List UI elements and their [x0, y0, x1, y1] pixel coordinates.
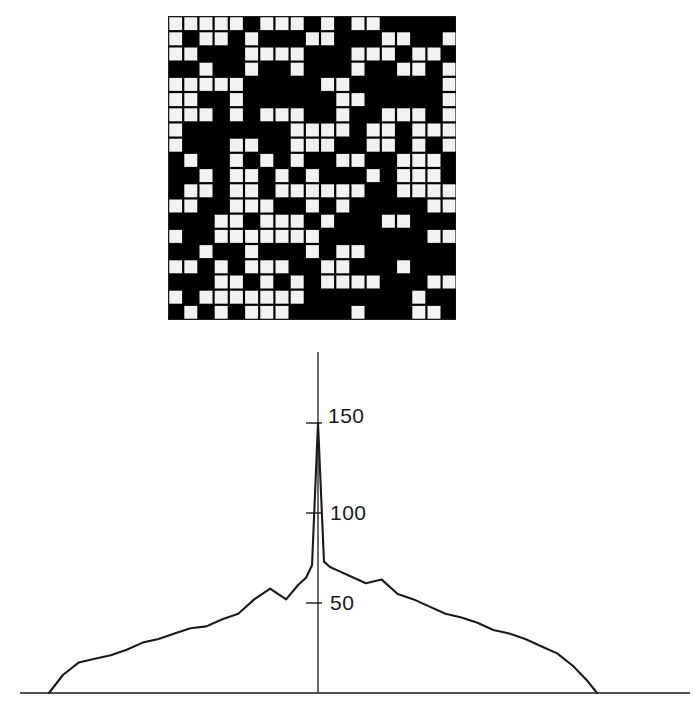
grid-cell-off [306, 230, 319, 243]
grid-cell-off [291, 17, 304, 30]
grid-cell-off [230, 291, 243, 304]
grid-cell-off [382, 215, 395, 228]
grid-cell-off [260, 291, 273, 304]
grid-cell-off [336, 184, 349, 197]
grid-cell-off [215, 260, 228, 273]
grid-cell-off [276, 48, 289, 61]
autocorrelation-plot-svg: 150 100 50 [0, 330, 700, 713]
grid-cell-off [428, 306, 441, 319]
grid-cell-off [169, 124, 182, 137]
grid-cell-off [230, 215, 243, 228]
grid-cell-off [306, 32, 319, 45]
grid-cell-off [367, 169, 380, 182]
grid-cell-off [443, 276, 456, 289]
grid-cell-off [276, 291, 289, 304]
grid-cell-off [169, 230, 182, 243]
grid-cell-off [276, 17, 289, 30]
grid-cell-off [306, 124, 319, 137]
grid-cell-off [412, 48, 425, 61]
grid-cell-off [260, 215, 273, 228]
grid-cell-off [352, 63, 365, 76]
grid-cell-off [260, 260, 273, 273]
grid-cell-off [276, 215, 289, 228]
grid-cell-off [200, 291, 213, 304]
grid-cell-off [428, 276, 441, 289]
grid-cell-off [336, 93, 349, 106]
grid-cell-off [260, 154, 273, 167]
grid-cell-off [321, 32, 334, 45]
binary-grid-panel [168, 16, 456, 322]
grid-cell-off [352, 184, 365, 197]
grid-cell-off [184, 200, 197, 213]
grid-cell-off [200, 63, 213, 76]
grid-cell-off [245, 200, 258, 213]
grid-cell-off [215, 291, 228, 304]
grid-cell-off [169, 48, 182, 61]
grid-cell-off [291, 63, 304, 76]
grid-cell-off [260, 276, 273, 289]
grid-cell-off [169, 291, 182, 304]
grid-cell-off [382, 124, 395, 137]
grid-cell-off [443, 32, 456, 45]
grid-cell-off [169, 200, 182, 213]
grid-cell-off [397, 215, 410, 228]
grid-cell-off [200, 32, 213, 45]
grid-cell-off [184, 78, 197, 91]
grid-cell-off [169, 32, 182, 45]
grid-cell-off [169, 108, 182, 121]
grid-cell-off [200, 108, 213, 121]
grid-cell-off [412, 108, 425, 121]
grid-cell-off [443, 200, 456, 213]
grid-cell-off [230, 154, 243, 167]
grid-cell-off [306, 184, 319, 197]
grid-black-field [168, 16, 456, 320]
grid-cell-off [367, 48, 380, 61]
grid-cell-off [397, 184, 410, 197]
grid-cell-off [428, 184, 441, 197]
grid-cell-off [260, 108, 273, 121]
grid-cell-off [215, 78, 228, 91]
grid-cell-off [230, 78, 243, 91]
grid-cell-off [184, 184, 197, 197]
grid-cell-off [245, 63, 258, 76]
grid-cell-off [245, 139, 258, 152]
grid-cell-off [382, 139, 395, 152]
grid-cell-off [352, 17, 365, 30]
grid-cell-off [215, 230, 228, 243]
grid-cell-off [200, 169, 213, 182]
grid-cell-off [428, 48, 441, 61]
grid-cell-off [336, 260, 349, 273]
grid-cell-off [397, 108, 410, 121]
grid-cell-off [200, 184, 213, 197]
grid-cell-off [306, 200, 319, 213]
grid-cell-off [321, 78, 334, 91]
grid-cell-off [245, 230, 258, 243]
grid-cell-off [443, 184, 456, 197]
grid-cell-off [230, 108, 243, 121]
grid-cell-off [428, 200, 441, 213]
grid-cell-off [184, 48, 197, 61]
y-tick-label-100: 100 [330, 501, 367, 524]
grid-cell-off [260, 306, 273, 319]
grid-cell-off [200, 245, 213, 258]
grid-cell-off [443, 93, 456, 106]
grid-cell-off [336, 78, 349, 91]
grid-cell-off [336, 200, 349, 213]
grid-cell-off [276, 230, 289, 243]
y-tick-label-50: 50 [330, 591, 354, 614]
grid-cell-off [412, 124, 425, 137]
grid-cell-off [443, 230, 456, 243]
grid-cell-off [397, 154, 410, 167]
grid-cell-off [169, 260, 182, 273]
grid-cell-off [230, 139, 243, 152]
grid-cell-off [321, 124, 334, 137]
grid-cell-off [276, 306, 289, 319]
grid-cell-off [382, 48, 395, 61]
grid-cell-off [245, 245, 258, 258]
grid-cell-off [230, 184, 243, 197]
grid-cell-off [169, 93, 182, 106]
grid-cell-off [260, 48, 273, 61]
grid-cell-off [215, 215, 228, 228]
grid-cell-off [245, 306, 258, 319]
figure-root: 150 100 50 [0, 0, 700, 713]
